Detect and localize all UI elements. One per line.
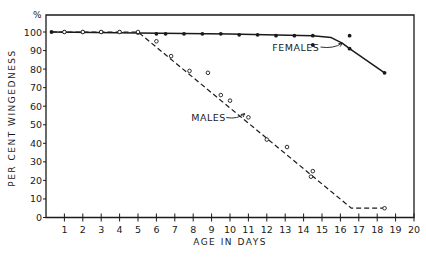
data-point	[155, 39, 159, 43]
data-point	[311, 169, 315, 173]
data-point	[247, 116, 251, 120]
x-tick-label: 6	[153, 224, 159, 235]
annotation-females: FEMALES	[272, 42, 319, 53]
data-point	[311, 34, 315, 38]
x-axis-ticks: 1234567891011121314151617181920	[61, 214, 420, 235]
data-point	[348, 47, 352, 51]
x-tick-label: 19	[390, 224, 402, 235]
data-point	[309, 175, 313, 179]
y-tick-label: 100	[24, 27, 42, 38]
y-tick-label: 50	[30, 119, 42, 130]
series-annotations: FEMALESMALES	[191, 42, 342, 123]
x-tick-label: 18	[371, 224, 383, 235]
data-point	[348, 34, 352, 38]
y-tick-label: 90	[30, 45, 42, 56]
x-tick-label: 1	[61, 224, 67, 235]
data-point	[219, 93, 223, 97]
wingedness-line-chart: 0102030405060708090100 12345678910111213…	[0, 0, 426, 258]
data-point	[265, 138, 269, 142]
x-tick-label: 16	[334, 224, 346, 235]
data-point	[169, 54, 173, 58]
y-tick-label: 40	[30, 138, 42, 149]
data-point	[256, 33, 260, 37]
series-females	[50, 30, 387, 75]
x-tick-label: 11	[242, 224, 254, 235]
x-tick-label: 2	[80, 224, 86, 235]
y-axis-title: PER CENT WINGEDNESS	[7, 49, 17, 187]
y-tick-label: 10	[30, 193, 42, 204]
y-tick-label: 80	[30, 64, 42, 75]
y-axis-ticks: 0102030405060708090100	[24, 27, 46, 224]
data-point	[182, 32, 186, 36]
y-unit-label: %	[33, 10, 43, 20]
y-tick-label: 70	[30, 82, 42, 93]
data-point	[383, 206, 387, 210]
x-tick-label: 4	[117, 224, 123, 235]
data-point	[63, 30, 67, 34]
x-tick-label: 12	[261, 224, 273, 235]
annotation-males: MALES	[191, 112, 226, 123]
y-tick-label: 20	[30, 175, 42, 186]
x-tick-label: 13	[279, 224, 291, 235]
data-point	[274, 34, 278, 38]
x-tick-label: 3	[98, 224, 104, 235]
data-point	[237, 33, 241, 37]
x-tick-label: 14	[298, 224, 310, 235]
plot-frame	[46, 15, 414, 218]
data-point	[155, 32, 159, 36]
x-tick-label: 15	[316, 224, 328, 235]
x-axis-title: AGE IN DAYS	[193, 237, 267, 247]
x-tick-label: 10	[224, 224, 236, 235]
data-point	[99, 30, 103, 34]
data-point	[293, 34, 297, 38]
data-point	[118, 30, 122, 34]
x-tick-label: 7	[172, 224, 178, 235]
data-point	[228, 99, 232, 103]
data-point	[201, 32, 205, 36]
data-point	[219, 32, 223, 36]
x-tick-label: 8	[190, 224, 196, 235]
data-point	[206, 71, 210, 75]
x-tick-label: 20	[408, 224, 420, 235]
x-tick-label: 5	[135, 224, 141, 235]
data-point	[136, 30, 140, 34]
x-tick-label: 17	[353, 224, 365, 235]
y-tick-label: 0	[36, 212, 42, 223]
data-point	[188, 69, 192, 73]
y-tick-label: 30	[30, 156, 42, 167]
data-point	[383, 71, 387, 75]
y-tick-label: 60	[30, 101, 42, 112]
data-point	[285, 145, 289, 149]
x-tick-label: 9	[209, 224, 215, 235]
data-point	[164, 32, 168, 36]
data-point	[81, 30, 85, 34]
